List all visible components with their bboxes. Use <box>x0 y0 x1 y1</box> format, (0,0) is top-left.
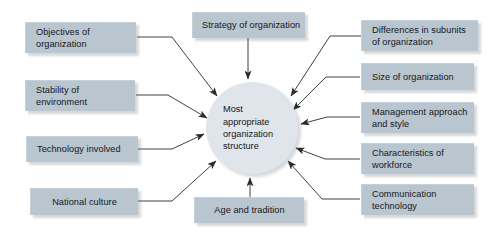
connector-technology-involved <box>138 134 204 149</box>
node-size-of-organization[interactable]: Size of organization <box>361 63 474 90</box>
node-objectives-of-organization[interactable]: Objectives of organization <box>25 22 136 53</box>
diagram-canvas: Most appropriate organization structure … <box>0 0 495 237</box>
node-line-1: Differences in subunits <box>372 24 469 36</box>
node-line-2: technology <box>372 200 465 212</box>
hub-line-2: appropriate <box>223 116 269 128</box>
node-differences-in-subunits-of-organization[interactable]: Differences in subunits of organization <box>361 20 478 51</box>
connector-national-culture <box>138 161 216 201</box>
connector-characteristics-of-workforce <box>296 148 360 159</box>
node-stability-of-environment[interactable]: Stability of environment <box>25 80 135 111</box>
node-line-1: Size of organization <box>372 71 465 83</box>
connector-size-of-organization <box>293 77 360 110</box>
node-technology-involved[interactable]: Technology involved <box>26 136 138 162</box>
node-line-2: environment <box>36 96 126 108</box>
node-age-and-tradition[interactable]: Age and tradition <box>194 197 304 223</box>
node-line-1: Management approach <box>372 106 465 118</box>
node-strategy-of-organization[interactable]: Strategy of organization <box>192 12 305 38</box>
connector-communication-technology <box>288 161 360 199</box>
connector-management-approach-and-style <box>301 117 360 124</box>
hub-line-4: structure <box>223 140 259 152</box>
node-line-2: of organization <box>372 36 469 48</box>
connector-differences-in-subunits <box>291 36 361 96</box>
node-line-1: Age and tradition <box>204 204 295 216</box>
node-characteristics-of-workforce[interactable]: Characteristics of workforce <box>361 143 474 174</box>
node-line-1: Technology involved <box>37 143 129 155</box>
node-line-1: Communication <box>372 188 465 200</box>
node-line-1: National culture <box>40 196 129 208</box>
node-national-culture[interactable]: National culture <box>30 188 138 215</box>
hub-line-1: Most <box>223 103 243 115</box>
node-line-2: organization <box>36 38 127 50</box>
connector-stability-of-environment <box>136 95 207 118</box>
node-line-1: Characteristics of <box>372 147 465 159</box>
hub-line-3: organization <box>223 128 273 140</box>
node-line-1: Objectives of <box>36 26 127 38</box>
node-line-1: Strategy of organization <box>202 19 296 31</box>
node-line-2: workforce <box>372 159 465 171</box>
connector-objectives-of-organization <box>137 37 217 96</box>
node-line-2: and style <box>372 118 465 130</box>
node-line-1: Stability of <box>36 84 126 96</box>
hub-most-appropriate-organization-structure[interactable]: Most appropriate organization structure <box>206 82 298 174</box>
node-management-approach-and-style[interactable]: Management approach and style <box>361 102 474 133</box>
node-communication-technology[interactable]: Communication technology <box>361 184 474 215</box>
